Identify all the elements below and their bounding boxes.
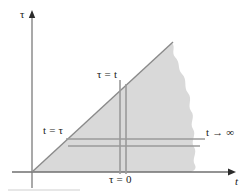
t-axis-label: t <box>235 176 238 187</box>
tau-axis-label: τ <box>20 9 24 20</box>
shaded-wedge-region <box>32 43 196 172</box>
t-to-infinity-label: t → ∞ <box>206 127 234 138</box>
figure-container: τ t τ = t t = τ t → ∞ τ = 0 <box>0 0 250 196</box>
tau-equals-zero-label: τ = 0 <box>109 174 132 185</box>
t-equals-tau-label: t = τ <box>43 125 63 136</box>
tau-axis <box>29 10 35 188</box>
tau-equals-t-label: τ = t <box>97 69 117 80</box>
diagram-canvas <box>0 0 250 196</box>
